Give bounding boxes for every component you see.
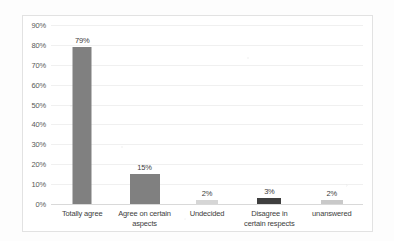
y-axis-tick-label: 20% (32, 160, 46, 169)
chart-frame: 0%10%20%30%40%50%60%70%80%90%79%Totally … (22, 15, 373, 232)
bar-value-label: 15% (137, 163, 151, 172)
plot-area: 0%10%20%30%40%50%60%70%80%90%79%Totally … (51, 25, 363, 204)
bar-value-label: 3% (264, 187, 274, 196)
x-axis-category-label: Totally agree (47, 209, 117, 219)
bar-group[interactable]: 79%Totally agree (51, 25, 113, 204)
x-axis-category-label: Undecided (172, 209, 242, 219)
y-axis-tick-label: 90% (32, 21, 46, 30)
axis-baseline (51, 204, 363, 205)
y-axis-tick-label: 70% (32, 60, 46, 69)
x-axis-category-label: Agree on certainaspects (110, 209, 180, 228)
bar[interactable] (130, 174, 160, 204)
bar-group[interactable]: 15%Agree on certainaspects (113, 25, 175, 204)
bar-group[interactable]: 2%unanswered (301, 25, 363, 204)
bar-value-label: 79% (75, 36, 89, 45)
bar-value-label: 2% (202, 189, 212, 198)
bar-group[interactable]: 2%Undecided (176, 25, 238, 204)
y-axis-tick-label: 30% (32, 140, 46, 149)
y-axis-tick-label: 40% (32, 120, 46, 129)
bar-group[interactable]: 3%Disagree incertain respects (238, 25, 300, 204)
bar[interactable] (73, 47, 92, 204)
y-axis-tick-label: 10% (32, 180, 46, 189)
y-axis-tick-label: 80% (32, 40, 46, 49)
x-axis-category-label: Disagree incertain respects (234, 209, 304, 228)
y-axis-tick-label: 0% (36, 200, 46, 209)
x-axis-category-label: unanswered (297, 209, 367, 219)
bar-value-label: 2% (327, 189, 337, 198)
bar[interactable] (321, 200, 343, 204)
bar[interactable] (257, 198, 281, 204)
bar[interactable] (196, 200, 218, 204)
y-axis-tick-label: 50% (32, 100, 46, 109)
y-axis-tick-label: 60% (32, 80, 46, 89)
chart-page: 0%10%20%30%40%50%60%70%80%90%79%Totally … (0, 0, 394, 241)
